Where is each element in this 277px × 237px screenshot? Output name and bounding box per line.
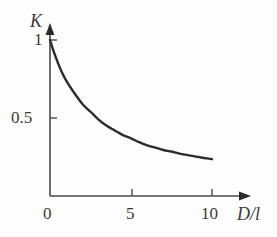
x-axis-title: D/l	[237, 205, 260, 223]
y-tick-label-1: 1	[34, 31, 43, 48]
x-tick-label-5: 5	[126, 205, 135, 222]
data-curve	[50, 40, 212, 159]
x-axis	[50, 192, 251, 201]
x-tick-label-10: 10	[201, 205, 218, 222]
y-tick-label-0.5: 0.5	[11, 109, 32, 126]
y-axis-title: K	[30, 12, 42, 30]
figure-container: K D/l 1 0.5 0 5 10	[0, 0, 277, 237]
x-tick-marks	[132, 189, 212, 196]
x-tick-label-0: 0	[43, 205, 52, 222]
